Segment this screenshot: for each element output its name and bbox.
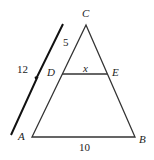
measure-ab: 10 (79, 141, 90, 153)
label-a: A (18, 130, 25, 142)
measure-de: x (83, 62, 88, 74)
measure-cd: 5 (63, 36, 69, 48)
label-b: B (139, 133, 146, 145)
brace-ca (11, 24, 63, 135)
label-e: E (112, 66, 119, 78)
measure-ca: 12 (17, 63, 28, 75)
triangle-abc (32, 25, 135, 137)
label-d: D (47, 66, 55, 78)
label-c: C (82, 7, 89, 19)
